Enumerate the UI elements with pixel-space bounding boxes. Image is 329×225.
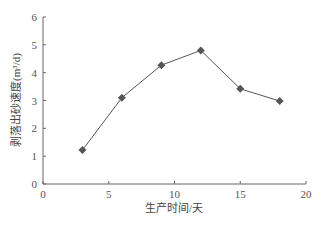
y-tick-label: 4 [32, 67, 38, 79]
y-axis-label: 剥落出砂速度(m³/d) [9, 53, 23, 147]
y-tick-label: 3 [32, 95, 38, 107]
axes [43, 17, 306, 184]
x-tick-label: 20 [301, 188, 313, 200]
diamond-marker [78, 146, 86, 154]
data-markers [78, 46, 283, 154]
y-tick-label: 1 [32, 150, 38, 162]
x-tick-label: 0 [40, 188, 46, 200]
y-tick-label: 6 [32, 11, 38, 23]
y-tick-label: 2 [32, 122, 38, 134]
y-tick-label: 0 [32, 178, 38, 190]
x-tick-label: 10 [169, 188, 181, 200]
x-tick-label: 5 [106, 188, 112, 200]
line-chart: 05101520 0123456 生产时间/天 剥落出砂速度(m³/d) [0, 0, 329, 225]
series-line [82, 50, 279, 150]
y-axis-ticks: 0123456 [32, 11, 47, 190]
y-tick-label: 5 [32, 39, 38, 51]
x-tick-label: 15 [235, 188, 247, 200]
x-axis-label: 生产时间/天 [145, 201, 203, 214]
diamond-marker [276, 97, 284, 105]
